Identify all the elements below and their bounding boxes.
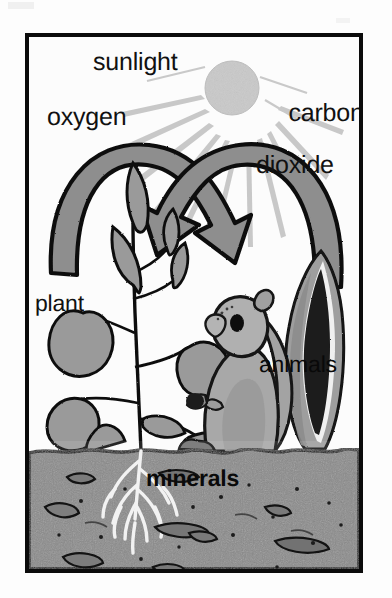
- label-oxygen: oxygen: [47, 104, 126, 130]
- label-carbon-line1: carbon: [288, 99, 363, 127]
- scan-artifact-secondary: [336, 18, 350, 23]
- page-canvas: sunlight carbon dioxide oxygen plant ani…: [0, 0, 392, 598]
- label-carbon-line2: dioxide: [256, 152, 363, 178]
- diagram-frame: sunlight carbon dioxide oxygen plant ani…: [25, 33, 363, 573]
- label-carbon-dioxide: carbon dioxide: [248, 74, 363, 230]
- label-minerals: minerals: [146, 467, 239, 491]
- label-plant: plant: [35, 292, 84, 316]
- label-sunlight: sunlight: [93, 49, 178, 75]
- scan-artifact: [8, 2, 34, 9]
- label-animals: animals: [259, 353, 337, 377]
